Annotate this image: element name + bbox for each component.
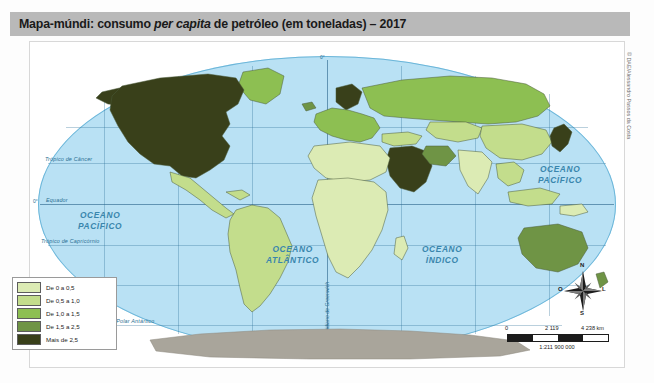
legend-item[interactable]: De 1,5 a 2,5: [17, 321, 112, 332]
legend-item[interactable]: De 0,5 a 1,0: [17, 295, 112, 306]
compass-rose: N S O L: [558, 263, 608, 319]
map-scale: 0 2 119 4 238 km 1:211 900 000: [505, 325, 613, 350]
title-suffix: de petróleo (em toneladas) – 2017: [211, 17, 407, 31]
ocean-label-line1: OCEANO: [266, 244, 319, 255]
legend-swatch: [17, 321, 41, 332]
legend-label: De 1,5 a 2,5: [46, 323, 80, 330]
title-prefix: Mapa-múndi: consumo: [19, 17, 154, 31]
ocean-label-line2: ÍNDICO: [422, 255, 462, 266]
scale-tick-mid: 2 119: [545, 325, 559, 331]
legend-item[interactable]: De 1,0 a 1,5: [17, 308, 112, 319]
legend-swatch: [17, 295, 41, 306]
legend-item[interactable]: De 0 a 0,5: [17, 282, 112, 293]
title-bar: Mapa-múndi: consumo per capita de petról…: [10, 12, 630, 36]
scale-bar: [507, 334, 609, 342]
ocean-label-line2: ATLÂNTICO: [266, 255, 319, 266]
ocean-label-line1: OCEANO: [422, 244, 462, 255]
copyright-credit: © DAE/Alessandro Passos da Costa: [626, 52, 632, 139]
ocean-label-line1: OCEANO: [78, 210, 122, 221]
legend-label: Mais de 2,5: [46, 336, 78, 343]
ocean-label-line2: PACÍFICO: [538, 175, 582, 186]
scale-ratio: 1:211 900 000: [505, 344, 609, 350]
legend-swatch: [17, 308, 41, 319]
legend-swatch: [17, 282, 41, 293]
map-legend: De 0 a 0,5 De 0,5 a 1,0 De 1,0 a 1,5 De …: [12, 277, 117, 350]
ocean-label-line1: OCEANO: [538, 164, 582, 175]
title-italic: per capita: [154, 17, 211, 31]
region-antarctica: [30, 42, 624, 367]
legend-swatch: [17, 334, 41, 345]
legend-label: De 0,5 a 1,0: [46, 297, 80, 304]
compass-needle-icon: [558, 263, 608, 319]
scale-tick-labels: 0 2 119 4 238 km: [505, 325, 613, 334]
scale-tick-end: 4 238 km: [581, 325, 604, 331]
scale-bar-segment: [533, 335, 558, 341]
scale-bar-segment: [508, 335, 533, 341]
scale-bar-segment: [558, 335, 583, 341]
map-frame: Trópico de Câncer 0° Equador Trópico de …: [29, 41, 625, 368]
page-title: Mapa-múndi: consumo per capita de petról…: [10, 17, 406, 31]
legend-label: De 1,0 a 1,5: [46, 310, 80, 317]
legend-label: De 0 a 0,5: [46, 284, 75, 291]
ocean-label-line2: PACÍFICO: [78, 221, 122, 232]
ocean-label-atlantico: OCEANO ATLÂNTICO: [266, 244, 319, 266]
map-page: Mapa-múndi: consumo per capita de petról…: [0, 0, 654, 383]
ocean-label-pacifico-east: OCEANO PACÍFICO: [538, 164, 582, 186]
scale-tick-0: 0: [505, 325, 508, 331]
scale-bar-segment: [583, 335, 608, 341]
legend-item[interactable]: Mais de 2,5: [17, 334, 112, 345]
ocean-label-pacifico-west: OCEANO PACÍFICO: [78, 210, 122, 232]
ocean-label-indico: OCEANO ÍNDICO: [422, 244, 462, 266]
